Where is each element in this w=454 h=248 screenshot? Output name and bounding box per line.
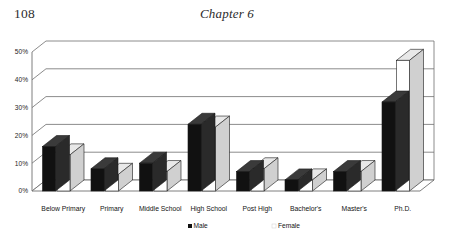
legend-label-female: Female <box>278 222 300 229</box>
gridline-depth-connector <box>32 69 46 80</box>
x-axis-category-label: Ph.D. <box>394 205 411 212</box>
x-axis-category-label: Bachelor's <box>290 205 322 212</box>
y-axis-tick-label: 0% <box>18 187 28 194</box>
bar-male <box>382 91 409 191</box>
y-axis-tick-label: 10% <box>15 160 28 167</box>
chart-canvas: 0%10%20%30%40%50% Below PrimaryPrimaryMi… <box>0 34 454 248</box>
x-axis-category-label: Below Primary <box>41 205 85 213</box>
bars-group <box>43 49 424 191</box>
bar-chart: 0%10%20%30%40%50% Below PrimaryPrimaryMi… <box>0 34 454 248</box>
chapter-title: Chapter 6 <box>0 6 454 22</box>
page-header: 108 Chapter 6 <box>0 6 454 28</box>
x-axis-category-label: Post High <box>243 205 273 213</box>
bar-male <box>43 136 70 191</box>
x-axis-category-label: Middle School <box>139 205 182 212</box>
gridline-depth-connector <box>32 97 46 108</box>
x-axis-category-label: Primary <box>100 205 124 213</box>
y-axis-tick-label: 20% <box>15 132 28 139</box>
y-axis-tick-label: 40% <box>15 76 28 83</box>
y-axis-tick-labels: 0%10%20%30%40%50% <box>15 48 28 194</box>
legend-marker-male <box>188 224 192 228</box>
chart-legend: MaleFemale <box>188 222 300 229</box>
gridline-depth-connector <box>32 41 46 52</box>
legend-marker-female <box>272 224 276 228</box>
gridline-depth-connector <box>32 124 46 135</box>
x-axis-category-label: Master's <box>342 205 368 212</box>
bar-male <box>188 113 215 191</box>
x-axis-category-labels: Below PrimaryPrimaryMiddle SchoolHigh Sc… <box>41 205 411 213</box>
legend-label-male: Male <box>194 222 209 229</box>
y-axis-tick-label: 30% <box>15 104 28 111</box>
x-axis-category-label: High School <box>190 205 227 213</box>
y-axis-tick-label: 50% <box>15 48 28 55</box>
